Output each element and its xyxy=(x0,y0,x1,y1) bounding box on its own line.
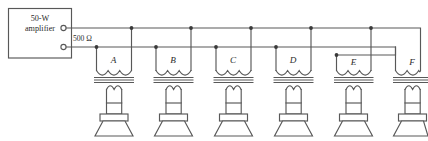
transformer-f: F xyxy=(393,57,428,90)
unit-d-label: D xyxy=(289,55,297,65)
amplifier-box: 50-W amplifier xyxy=(9,9,72,59)
speaker-b-voice-coil xyxy=(166,103,181,114)
transformer-d: D xyxy=(274,26,314,89)
transformer-c: C xyxy=(214,26,254,89)
speaker-d-magnet xyxy=(280,114,308,121)
speaker-d xyxy=(275,90,313,137)
speaker-c-horn xyxy=(215,121,253,136)
unit-f-primary-coil xyxy=(396,71,421,76)
speaker-c xyxy=(215,90,253,137)
speaker-f-voice-coil xyxy=(405,103,420,114)
unit-e-core xyxy=(334,78,374,83)
speaker-a-horn xyxy=(95,121,133,136)
unit-c-primary-coil xyxy=(216,71,251,76)
unit-c-label: C xyxy=(230,55,237,65)
transformer-e: E xyxy=(334,26,374,89)
speaker-b xyxy=(155,90,193,137)
speaker-e xyxy=(335,90,373,137)
amplifier-label-line-1: 50-W xyxy=(31,14,50,23)
unit-c-core xyxy=(214,78,254,83)
unit-f-core xyxy=(393,78,428,83)
speaker-c-magnet xyxy=(220,114,248,121)
unit-b-primary-coil xyxy=(156,71,191,76)
speaker-e-horn xyxy=(335,121,373,136)
speaker-f-horn xyxy=(394,121,428,136)
unit-a-secondary-coil xyxy=(107,86,122,90)
upper-bus-wire xyxy=(66,28,420,71)
unit-a-core xyxy=(94,78,134,83)
unit-a-junction-dot-upper xyxy=(130,26,134,30)
unit-b-secondary-coil xyxy=(166,86,181,90)
transformer-a: A xyxy=(94,26,134,89)
speaker-a-magnet xyxy=(100,114,128,121)
unit-b-junction-dot-upper xyxy=(189,26,193,30)
transformer-b: B xyxy=(154,26,194,89)
speaker-a xyxy=(95,90,133,137)
speaker-b-horn xyxy=(155,121,193,136)
speaker-b-magnet xyxy=(160,114,188,121)
impedance-label: 500 Ω xyxy=(73,34,92,43)
unit-b-core xyxy=(154,78,194,83)
unit-a-label: A xyxy=(110,55,117,65)
unit-c-junction-dot xyxy=(214,45,218,49)
speaker-d-voice-coil xyxy=(286,103,301,114)
speaker-e-voice-coil xyxy=(346,103,361,114)
unit-e-secondary-coil xyxy=(346,86,361,90)
unit-e-junction-dot xyxy=(335,53,339,57)
circuit-svg: 50-W amplifier 500 Ω xyxy=(0,0,428,141)
unit-a-junction-dot xyxy=(95,45,99,49)
lower-bus-wire xyxy=(66,47,395,55)
speaker-d-horn xyxy=(275,121,313,136)
unit-a-primary-coil xyxy=(97,71,132,76)
unit-d-primary-coil xyxy=(276,71,311,76)
unit-b-junction-dot xyxy=(154,45,158,49)
unit-f-secondary-coil xyxy=(405,86,420,90)
speaker-f xyxy=(394,90,428,137)
circuit-diagram: 50-W amplifier 500 Ω xyxy=(0,0,428,141)
unit-e-junction-dot-upper xyxy=(369,26,373,30)
speaker-a-voice-coil xyxy=(107,103,122,114)
unit-f-label: F xyxy=(408,57,415,67)
unit-d-core xyxy=(274,78,314,83)
speaker-c-voice-coil xyxy=(226,103,241,114)
unit-c-junction-dot-upper xyxy=(249,26,253,30)
output-terminal-lower[interactable] xyxy=(61,44,66,49)
speaker-f-magnet xyxy=(399,114,427,121)
speaker-e-magnet xyxy=(340,114,368,121)
output-terminal-upper[interactable] xyxy=(61,25,66,30)
amplifier-label-line-2: amplifier xyxy=(25,24,55,33)
unit-e-primary-coil xyxy=(337,71,372,76)
unit-b-label: B xyxy=(170,55,176,65)
unit-d-junction-dot-upper xyxy=(309,26,313,30)
unit-d-junction-dot xyxy=(274,45,278,49)
unit-d-secondary-coil xyxy=(286,86,301,90)
unit-e-label: E xyxy=(350,57,357,67)
unit-c-secondary-coil xyxy=(226,86,241,90)
